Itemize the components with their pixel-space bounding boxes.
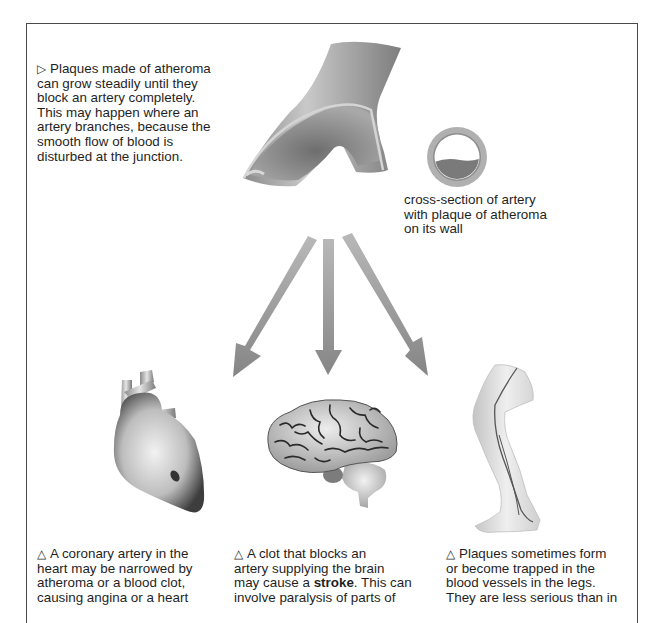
heart-illustration [80, 360, 230, 530]
arrow-to-leg [342, 233, 428, 376]
caption-line: may cause a [234, 575, 314, 590]
caption-line: A clot that blocks an [247, 546, 366, 561]
brain-illustration [250, 380, 420, 520]
caption-line: . This can [354, 575, 412, 590]
caption-line: involve paralysis of parts of [234, 591, 434, 606]
caption-line: atheroma or a blood clot, [37, 576, 232, 591]
caption-line: causing angina or a heart [37, 591, 232, 606]
up-triangle-marker-icon: △ [446, 547, 455, 561]
caption-line: They are less serious than in [446, 591, 641, 606]
arrow-to-brain [315, 239, 342, 375]
heart-caption: △A coronary artery in the heart may be n… [37, 547, 232, 605]
caption-line: artery supplying the brain [234, 562, 434, 577]
caption-line: blood vessels in the legs. [446, 576, 641, 591]
up-triangle-marker-icon: △ [37, 547, 46, 561]
up-triangle-marker-icon: △ [234, 547, 243, 561]
caption-line: or become trapped in the [446, 562, 641, 577]
brain-caption: △A clot that blocks an artery supplying … [234, 547, 434, 605]
arrow-to-heart [233, 236, 317, 377]
stroke-term: stroke [314, 575, 354, 590]
leg-illustration [455, 360, 575, 550]
caption-line: A coronary artery in the [50, 546, 188, 561]
caption-line: Plaques sometimes form [459, 546, 606, 561]
caption-line: heart may be narrowed by [37, 562, 232, 577]
leg-caption: △Plaques sometimes form or become trappe… [446, 547, 641, 605]
